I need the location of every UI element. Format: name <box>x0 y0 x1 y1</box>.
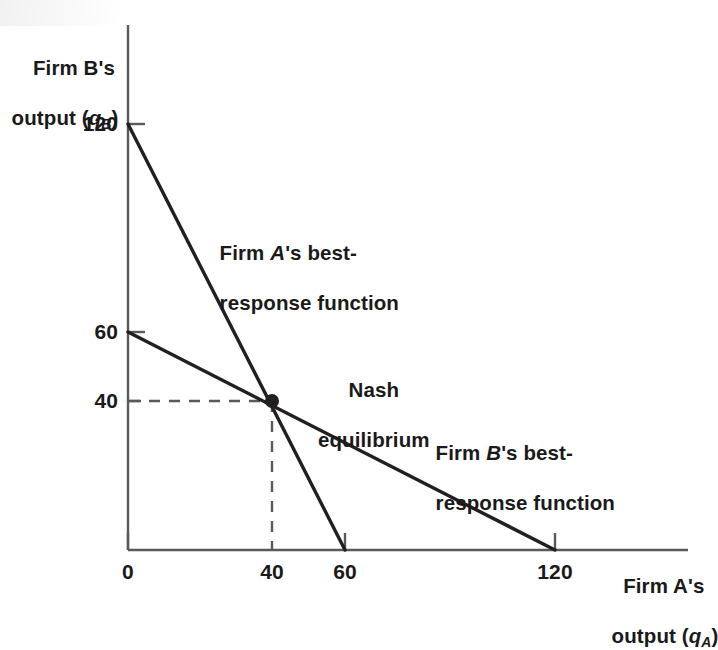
x-tick-label-0: 0 <box>103 559 153 585</box>
nash-annotation-line2: equilibrium <box>318 428 430 451</box>
nash-annotation-line1: Nash <box>349 378 400 401</box>
y-tick-label-60: 60 <box>50 319 118 345</box>
firm-b-symbol: B <box>486 441 501 464</box>
firm-a-best-response-line <box>128 124 345 550</box>
firm-b-annotation-line2: response function <box>436 491 615 514</box>
firm-a-annotation-line2: response function <box>220 291 399 314</box>
y-axis-title-line1: Firm B's <box>33 56 115 79</box>
x-axis-title-line2: output (qA) <box>612 624 718 647</box>
y-axis-ticks <box>128 124 145 401</box>
firm-b-annotation: Firm B's best- response function <box>424 415 615 515</box>
x-axis-quantity-symbol: q <box>689 624 702 647</box>
x-tick-label-40: 40 <box>247 559 297 585</box>
y-tick-label-40: 40 <box>50 388 118 414</box>
x-tick-label-120: 120 <box>530 559 580 585</box>
x-axis-firm-subscript: A <box>701 634 711 650</box>
firm-a-symbol: A <box>270 241 285 264</box>
firm-a-annotation-line1: Firm A's best- <box>220 241 357 264</box>
x-axis-title: Firm A's output (qA) <box>600 548 716 648</box>
firm-a-annotation: Firm A's best- response function <box>208 215 399 315</box>
firm-b-annotation-line1: Firm B's best- <box>436 441 573 464</box>
equilibrium-guide-lines <box>129 401 272 549</box>
nash-equilibrium-annotation: Nash equilibrium <box>288 352 448 452</box>
nash-equilibrium-dot <box>265 394 279 408</box>
x-tick-label-60: 60 <box>320 559 370 585</box>
y-tick-label-120: 120 <box>50 111 118 137</box>
x-axis-title-line1: Firm A's <box>623 574 704 597</box>
